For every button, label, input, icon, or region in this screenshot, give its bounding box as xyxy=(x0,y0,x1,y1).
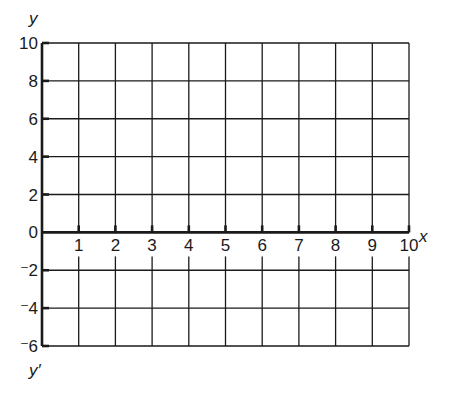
x-tick-label: 5 xyxy=(221,236,230,255)
x-tick-label: 1 xyxy=(74,236,83,255)
y-tick-label: 4 xyxy=(29,148,38,167)
y-tick-label: 0 xyxy=(29,223,38,242)
x-axis-label: x xyxy=(418,227,428,246)
y-tick-label: ⁻6 xyxy=(20,337,38,356)
x-tick-label: 10 xyxy=(400,236,419,255)
x-tick-label: 3 xyxy=(147,236,156,255)
x-tick-label: 8 xyxy=(331,236,340,255)
x-tick-label: 6 xyxy=(257,236,266,255)
y-tick-label: ⁻2 xyxy=(20,261,38,280)
y-negative-axis-label: y′ xyxy=(28,361,42,380)
x-tick-label: 7 xyxy=(294,236,303,255)
grid-lines xyxy=(42,43,409,346)
y-tick-label: 6 xyxy=(29,110,38,129)
coordinate-grid-chart: 12345678910 1086420⁻2⁻4⁻6 y x y′ xyxy=(0,0,456,394)
x-tick-labels: 12345678910 xyxy=(74,236,418,255)
y-tick-labels: 1086420⁻2⁻4⁻6 xyxy=(19,34,38,356)
y-tick-label: 10 xyxy=(19,34,38,53)
y-tick-label: ⁻4 xyxy=(20,299,38,318)
y-tick-label: 2 xyxy=(29,186,38,205)
y-axis-label: y xyxy=(28,9,39,28)
y-tick-label: 8 xyxy=(29,72,38,91)
x-tick-label: 9 xyxy=(368,236,377,255)
x-tick-label: 4 xyxy=(184,236,193,255)
x-tick-label: 2 xyxy=(111,236,120,255)
